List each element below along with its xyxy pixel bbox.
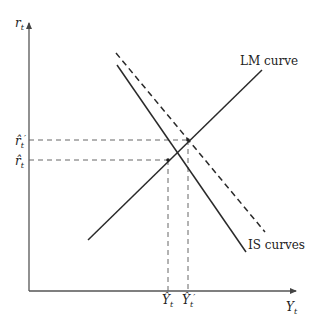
y-hat-prime-label: Ŷt′	[182, 292, 195, 309]
is-lm-diagram: rt Yt r̂t′ r̂t Ŷt Ŷt′ LM curve IS curves	[0, 0, 311, 320]
x-axis-label: Yt	[286, 300, 298, 316]
lm-curve-label: LM curve	[240, 54, 298, 68]
y-axis-label: rt	[15, 16, 25, 32]
lm-curve	[88, 70, 262, 240]
r-hat-prime-label: r̂t′	[15, 134, 26, 150]
is-curves-label: IS curves	[248, 238, 305, 252]
equilibrium-point-shifted	[186, 138, 190, 142]
is-curve	[117, 65, 246, 252]
y-hat-label: Ŷt	[162, 292, 174, 309]
equilibrium-point	[166, 158, 170, 162]
r-hat-label: r̂t	[15, 154, 25, 170]
is-curve-shifted	[116, 53, 265, 232]
